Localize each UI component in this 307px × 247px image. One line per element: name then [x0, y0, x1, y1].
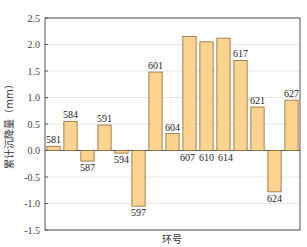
bar-581: [47, 146, 60, 150]
bar-597: [132, 151, 145, 207]
y-tick-label: 2.0: [28, 39, 41, 50]
y-tick-label: 2.5: [28, 13, 41, 24]
bar-627: [285, 100, 298, 150]
bar-label: 617: [233, 48, 248, 59]
bar-607: [183, 37, 196, 151]
bar-label: 601: [148, 60, 163, 71]
bar-624: [268, 151, 281, 192]
bar-label: 587: [80, 162, 95, 173]
bar-621: [251, 107, 264, 150]
bar-591: [98, 125, 111, 150]
bar-label: 581: [46, 134, 61, 145]
bar-label: 607: [180, 152, 195, 163]
x-axis-label: 环号: [162, 234, 182, 245]
bar-label: 594: [114, 154, 129, 165]
bar-label: 627: [284, 88, 299, 99]
y-tick-label: 1.0: [28, 92, 41, 103]
bar-label: 614: [218, 152, 233, 163]
bar-614: [217, 38, 230, 150]
bar-604: [166, 134, 179, 151]
y-tick-label: -1.5: [24, 225, 40, 236]
bar-label: 584: [63, 109, 78, 120]
bar-label: 610: [199, 152, 214, 163]
bar-chart: 5815845875915945976016046076106146176216…: [0, 0, 307, 247]
y-axis-label: 累计沉降量（mm）: [3, 79, 15, 168]
bar-label: 597: [131, 207, 146, 218]
bar-label: 604: [165, 122, 180, 133]
bar-label: 621: [250, 95, 265, 106]
bar-label: 591: [97, 113, 112, 124]
bar-584: [64, 121, 77, 150]
y-tick-label: 0.0: [28, 145, 41, 156]
y-tick-label: -1.0: [24, 198, 40, 209]
bar-label: 624: [267, 193, 282, 204]
y-tick-label: 1.5: [28, 66, 41, 77]
bar-594: [115, 151, 128, 154]
bar-587: [81, 151, 94, 162]
bar-610: [200, 42, 213, 151]
y-tick-label: 0.5: [28, 119, 41, 130]
y-tick-label: -0.5: [24, 172, 40, 183]
bar-617: [234, 60, 247, 150]
y-axis-ticks: 2.52.01.51.00.50.0-0.5-1.0-1.5: [24, 13, 48, 236]
bar-601: [149, 72, 162, 150]
